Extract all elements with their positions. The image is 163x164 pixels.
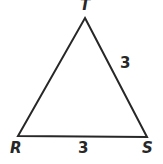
side-length-label-ts: 3 xyxy=(120,56,130,71)
vertex-label-r: R xyxy=(10,141,22,156)
side-length-label-rs: 3 xyxy=(78,141,88,156)
vertex-label-t: T xyxy=(80,0,90,13)
triangle-outline xyxy=(18,18,147,137)
vertex-label-s: S xyxy=(142,141,153,156)
geometry-figure: T R S 3 3 xyxy=(0,0,163,164)
